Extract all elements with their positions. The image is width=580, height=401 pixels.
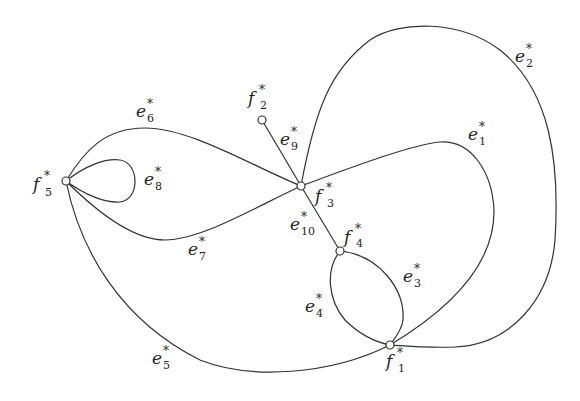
edge-e3 — [340, 251, 403, 345]
dual-graph-diagram: f * 5 f * 2 f * 3 f * 4 f * 1 e * 1 e * … — [0, 0, 580, 401]
svg-text:e: e — [152, 348, 162, 368]
svg-text:*: * — [316, 292, 322, 306]
svg-text:1: 1 — [398, 362, 405, 375]
node-f4 — [336, 247, 344, 255]
svg-text:2: 2 — [526, 57, 533, 70]
label-e2: e * 2 — [515, 42, 533, 70]
svg-text:8: 8 — [155, 180, 162, 193]
svg-text:*: * — [147, 97, 153, 111]
label-e1: e * 1 — [468, 120, 486, 148]
node-f2 — [258, 116, 266, 124]
svg-text:*: * — [326, 181, 332, 195]
label-e6: e * 6 — [136, 97, 154, 125]
svg-text:7: 7 — [199, 250, 206, 263]
label-e8: e * 8 — [144, 165, 162, 193]
node-f5 — [62, 177, 70, 185]
svg-text:f: f — [313, 186, 324, 206]
edge-e4 — [330, 251, 390, 345]
svg-text:f: f — [384, 351, 395, 371]
svg-text:f: f — [342, 227, 353, 247]
svg-text:*: * — [291, 125, 297, 139]
svg-text:4: 4 — [316, 307, 323, 320]
svg-text:*: * — [301, 210, 307, 224]
svg-text:e: e — [515, 46, 525, 66]
svg-text:6: 6 — [147, 112, 154, 125]
node-f3 — [297, 182, 305, 190]
label-e4: e * 4 — [305, 292, 323, 320]
svg-text:e: e — [305, 296, 315, 316]
label-f2: f * 2 — [246, 83, 267, 112]
label-e5: e * 5 — [152, 344, 170, 372]
svg-text:*: * — [414, 262, 420, 276]
label-f3: f * 3 — [313, 181, 334, 210]
svg-text:e: e — [280, 129, 290, 149]
svg-text:f: f — [246, 88, 257, 108]
svg-text:*: * — [355, 222, 361, 236]
node-f1 — [386, 341, 394, 349]
edge-e5 — [66, 181, 390, 372]
svg-text:*: * — [155, 165, 161, 179]
svg-text:e: e — [290, 214, 300, 234]
edge-e6 — [66, 128, 301, 186]
svg-text:*: * — [163, 344, 169, 358]
label-e3: e * 3 — [403, 262, 421, 290]
label-e10: e * 10 — [290, 210, 315, 238]
svg-text:9: 9 — [291, 140, 298, 153]
svg-text:*: * — [199, 235, 205, 249]
svg-text:4: 4 — [356, 237, 363, 250]
svg-text:*: * — [259, 83, 265, 97]
label-e7: e * 7 — [188, 235, 206, 263]
svg-text:3: 3 — [327, 197, 334, 210]
label-f5: f * 5 — [31, 169, 52, 199]
svg-text:e: e — [188, 239, 198, 259]
svg-text:e: e — [136, 101, 146, 121]
svg-text:*: * — [44, 169, 50, 183]
label-f4: f * 4 — [342, 222, 363, 250]
svg-text:3: 3 — [414, 277, 421, 290]
label-e9: e * 9 — [280, 125, 298, 153]
svg-text:10: 10 — [301, 225, 315, 238]
edge-e1 — [301, 142, 494, 345]
svg-text:1: 1 — [479, 135, 486, 148]
svg-text:e: e — [468, 124, 478, 144]
svg-text:e: e — [403, 266, 413, 286]
svg-text:5: 5 — [45, 186, 52, 199]
edge-e7 — [66, 181, 301, 240]
svg-text:f: f — [31, 174, 42, 194]
edge-e2 — [301, 26, 556, 347]
svg-text:5: 5 — [163, 359, 170, 372]
svg-text:*: * — [526, 42, 532, 56]
svg-text:2: 2 — [260, 99, 267, 112]
svg-text:e: e — [144, 169, 154, 189]
svg-text:*: * — [397, 346, 403, 360]
label-f1: f * 1 — [384, 346, 405, 375]
svg-text:*: * — [479, 120, 485, 134]
